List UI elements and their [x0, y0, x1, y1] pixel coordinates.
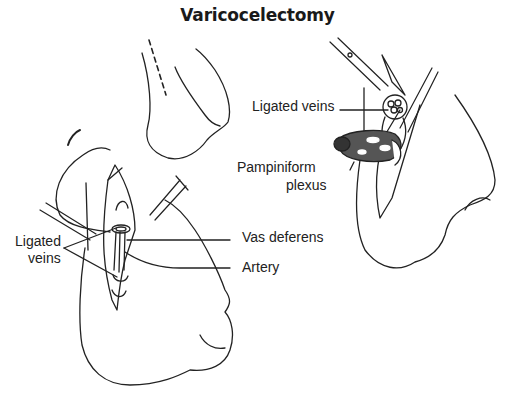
right-incision-figure	[330, 38, 495, 268]
illustration	[0, 0, 515, 404]
skin-marking-figure	[142, 40, 229, 159]
label-ligated-veins-left-line2: veins	[28, 250, 61, 267]
left-incision-figure	[40, 130, 232, 385]
label-ligated-veins-left-line1: Ligated	[15, 233, 61, 250]
label-pampiniform-line1: Pampiniform	[237, 159, 316, 176]
label-ligated-veins-right: Ligated veins	[252, 98, 335, 115]
label-pampiniform-line2: plexus	[286, 177, 326, 194]
diagram-canvas: Varicocelectomy	[0, 0, 515, 404]
label-artery: Artery	[242, 259, 279, 276]
label-vas-deferens: Vas deferens	[242, 229, 323, 246]
